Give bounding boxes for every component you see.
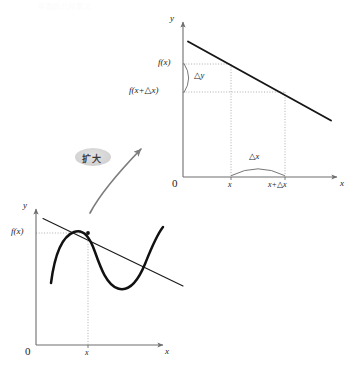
upper-origin-label: 0 bbox=[172, 178, 178, 189]
upper-y-axis-label: y bbox=[170, 14, 174, 23]
upper-x-axis-label: x bbox=[340, 179, 344, 188]
upper-chart-group bbox=[183, 22, 337, 180]
lower-origin-label: 0 bbox=[25, 346, 31, 357]
lower-chart-group bbox=[36, 209, 183, 348]
derivative-geometry-figure: 导数的几何意义 bbox=[0, 0, 351, 375]
lower-y-axis-label: y bbox=[23, 201, 27, 210]
tangency-point bbox=[86, 231, 90, 235]
delta-y-arc bbox=[184, 64, 189, 93]
cubic-curve bbox=[51, 227, 163, 289]
callout-label: 扩大 bbox=[82, 152, 101, 165]
lower-value-label-fx: f(x) bbox=[11, 227, 24, 236]
delta-x-arc bbox=[232, 169, 285, 176]
lower-tick-label-x: x bbox=[85, 349, 89, 357]
upper-tick-label-xdx: x+△x bbox=[268, 181, 287, 189]
lower-x-axis-label: x bbox=[165, 347, 169, 356]
secant-line bbox=[188, 42, 331, 121]
delta-y-label: △y bbox=[194, 71, 204, 80]
upper-value-label-fxdx: f(x+△x) bbox=[129, 86, 158, 95]
delta-x-label: △x bbox=[249, 152, 259, 161]
upper-tick-label-x: x bbox=[228, 181, 232, 189]
upper-value-label-fx: f(x) bbox=[158, 58, 171, 67]
